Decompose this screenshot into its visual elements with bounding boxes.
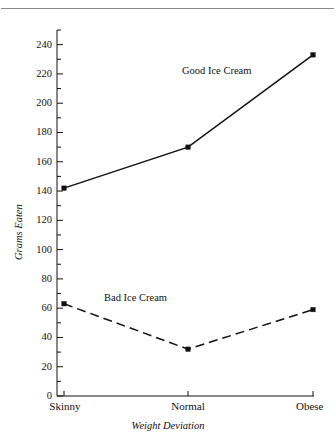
series-line-bad-ice-cream — [64, 304, 313, 349]
x-axis-title: Weight Deviation — [0, 420, 336, 431]
x-tick-label: Skinny — [49, 401, 80, 412]
y-tick-label: 220 — [36, 69, 52, 80]
x-tick-label: Normal — [171, 401, 205, 412]
series-group — [62, 53, 315, 352]
y-tick-label: 240 — [36, 39, 52, 50]
y-tick-label: 200 — [36, 98, 52, 109]
y-tick-label: 140 — [36, 186, 52, 197]
data-point-marker — [186, 145, 190, 149]
y-tick-label: 180 — [36, 127, 52, 138]
y-tick-label: 100 — [36, 244, 52, 255]
y-ticks-group — [57, 30, 63, 396]
y-tick-label: 160 — [36, 157, 52, 168]
x-ticks-group — [64, 391, 313, 396]
series-label-bad-ice-cream: Bad Ice Cream — [104, 292, 167, 303]
y-tick-label: 40 — [42, 332, 53, 343]
data-point-marker — [186, 347, 190, 351]
chart-figure: 020406080100120140160180200220240 Skinny… — [0, 0, 336, 448]
y-tick-label: 60 — [42, 303, 53, 314]
y-tick-label: 80 — [42, 274, 53, 285]
data-point-marker — [62, 302, 66, 306]
y-axis-title: Grams Eaten — [13, 204, 24, 260]
data-point-marker — [311, 307, 315, 311]
data-point-marker — [62, 186, 66, 190]
y-tick-label: 20 — [42, 361, 53, 372]
series-label-good-ice-cream: Good Ice Cream — [182, 65, 251, 76]
x-tick-label: Obese — [296, 401, 324, 412]
data-point-marker — [311, 53, 315, 57]
y-tick-label: 120 — [36, 215, 52, 226]
axes-group — [57, 30, 314, 396]
